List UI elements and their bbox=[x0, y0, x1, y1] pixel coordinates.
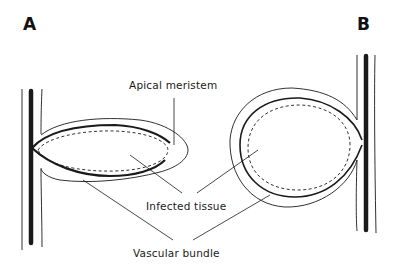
gall-b-outer bbox=[230, 88, 357, 207]
panel-label-b: B bbox=[357, 14, 370, 34]
label-infected-tissue: Infected tissue bbox=[146, 200, 226, 212]
stem-b-right-edge bbox=[375, 55, 376, 233]
panel-label-a: A bbox=[23, 14, 36, 34]
gall-b-infected bbox=[248, 105, 350, 190]
label-vascular-bundle: Vascular bundle bbox=[133, 247, 220, 259]
panel-a-drawing bbox=[22, 89, 188, 250]
gall-diagram bbox=[0, 0, 393, 271]
panel-b-drawing bbox=[193, 55, 376, 240]
gall-a-vascular bbox=[32, 125, 170, 176]
stem-b-left-edge bbox=[356, 55, 357, 231]
gall-a-outer bbox=[41, 119, 188, 182]
gall-b-vascular bbox=[240, 98, 362, 197]
label-apical-meristem: Apical meristem bbox=[129, 79, 217, 91]
leader-infected-b bbox=[197, 150, 258, 193]
